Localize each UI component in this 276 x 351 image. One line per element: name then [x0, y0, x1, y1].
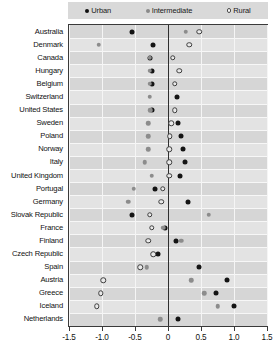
category-label: Finland [39, 237, 63, 245]
data-point [129, 29, 134, 34]
gridline [135, 25, 136, 326]
gridline [234, 25, 235, 326]
legend-item-urban[interactable]: Urban [85, 6, 111, 15]
axis-tick-label: 1.0 [229, 333, 240, 342]
data-point [167, 133, 173, 139]
axis-tick-label: -1.5 [62, 333, 76, 342]
data-point [149, 225, 155, 231]
axis-tick-label: 0.5 [196, 333, 207, 342]
category-label: Sweden [36, 119, 63, 127]
category-label: Switzerland [25, 93, 63, 101]
axis-tick [267, 327, 268, 331]
data-point [182, 160, 187, 165]
data-point [172, 107, 178, 113]
data-point [158, 317, 163, 322]
category-axis-labels: AustraliaDenmarkCanadaHungaryBelgiumSwit… [0, 24, 66, 327]
data-point [101, 277, 107, 283]
data-point [145, 238, 151, 244]
data-point [197, 265, 202, 270]
data-point [94, 304, 100, 310]
gridline [201, 25, 202, 326]
data-point [152, 186, 157, 191]
category-label: Australia [35, 28, 63, 36]
dot-plot-chart: Urban Intermediate Rural AustraliaDenmar… [0, 0, 276, 351]
data-point [207, 213, 212, 218]
value-axis: -1.5-1.0-0.500.51.01.5 [68, 327, 268, 351]
category-label: Czech Republic [12, 250, 63, 258]
data-point [180, 147, 185, 152]
data-point [156, 252, 161, 257]
data-point [149, 173, 154, 178]
data-point [175, 317, 180, 322]
urban-marker-icon [85, 9, 89, 13]
category-label: Netherlands [24, 316, 63, 324]
data-point [170, 55, 176, 61]
data-point [196, 29, 202, 35]
data-point [126, 199, 131, 204]
data-point [189, 278, 194, 283]
data-point [185, 199, 190, 204]
category-label: Belgium [37, 80, 63, 88]
axis-tick [168, 327, 169, 331]
data-point [96, 42, 101, 47]
data-point [173, 238, 178, 243]
category-label: Poland [40, 132, 63, 140]
data-point [176, 68, 182, 74]
legend-label-rural: Rural [233, 6, 250, 15]
data-point [129, 212, 134, 217]
data-point [147, 82, 152, 87]
data-point [161, 226, 166, 231]
data-point [184, 29, 189, 34]
legend-item-intermediate[interactable]: Intermediate [146, 6, 193, 15]
axis-tick-label: 1.5 [262, 333, 273, 342]
category-label: Denmark [33, 41, 63, 49]
data-point [148, 108, 153, 113]
data-point [151, 42, 156, 47]
data-point [179, 239, 184, 244]
data-point [232, 304, 237, 309]
gridline [267, 25, 268, 326]
data-point [146, 121, 151, 126]
axis-tick [201, 327, 202, 331]
category-label: Norway [38, 146, 63, 154]
category-label: Portugal [36, 185, 63, 193]
data-point [147, 212, 153, 218]
axis-tick-label: -0.5 [128, 333, 142, 342]
axis-tick-label: 0 [166, 333, 170, 342]
data-point [146, 134, 151, 139]
category-label: Hungary [35, 67, 63, 75]
category-label: United Kingdom [11, 172, 63, 180]
data-point [177, 173, 182, 178]
data-point [169, 120, 175, 126]
category-label: Germany [33, 198, 63, 206]
chart-legend: Urban Intermediate Rural [68, 2, 268, 19]
data-point [172, 81, 178, 87]
data-point [147, 69, 152, 74]
data-point [160, 186, 166, 192]
data-point [98, 291, 104, 297]
data-point [167, 173, 173, 179]
data-point [151, 251, 157, 257]
plot-area [68, 24, 268, 327]
axis-tick [69, 327, 70, 331]
data-point [138, 264, 144, 270]
axis-tick [102, 327, 103, 331]
data-point [146, 147, 151, 152]
rural-marker-icon [227, 8, 232, 13]
gridline [69, 25, 70, 326]
data-point [159, 199, 165, 205]
data-point [186, 42, 192, 48]
category-label: United States [19, 106, 63, 114]
data-point [179, 134, 184, 139]
data-point [215, 304, 220, 309]
category-label: Austria [40, 276, 63, 284]
data-point [167, 147, 173, 153]
axis-tick [135, 327, 136, 331]
category-label: Slovak Republic [11, 211, 63, 219]
legend-item-rural[interactable]: Rural [227, 6, 251, 15]
data-point [202, 291, 207, 296]
data-point [175, 121, 180, 126]
data-point [225, 278, 230, 283]
data-point [213, 291, 218, 296]
axis-tick-label: -1.0 [95, 333, 109, 342]
